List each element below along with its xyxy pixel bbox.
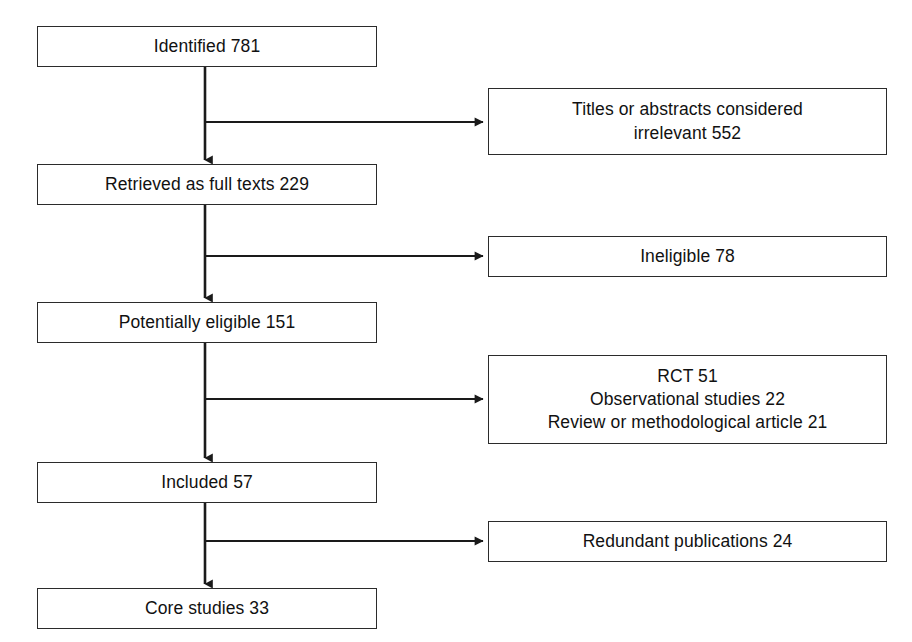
node-potentially-eligible: Potentially eligible 151 [37,302,377,343]
flowchart-canvas: Identified 781 Retrieved as full texts 2… [0,0,912,642]
node-excluded-study-types: RCT 51 Observational studies 22 Review o… [488,355,887,444]
node-potentially-eligible-label: Potentially eligible 151 [113,311,302,334]
node-ineligible-label: Ineligible 78 [634,245,741,268]
node-identified-label: Identified 781 [148,35,267,58]
node-retrieved-full-texts: Retrieved as full texts 229 [37,164,377,205]
node-included: Included 57 [37,462,377,503]
node-retrieved-full-texts-label: Retrieved as full texts 229 [99,173,315,196]
node-titles-abstracts-irrelevant-label: Titles or abstracts considered irrelevan… [566,98,809,144]
node-ineligible: Ineligible 78 [488,236,887,277]
node-core-studies-label: Core studies 33 [139,597,275,620]
node-titles-abstracts-irrelevant: Titles or abstracts considered irrelevan… [488,88,887,155]
node-identified: Identified 781 [37,26,377,67]
node-redundant-publications: Redundant publications 24 [488,521,887,562]
node-core-studies: Core studies 33 [37,588,377,629]
node-excluded-study-types-label: RCT 51 Observational studies 22 Review o… [542,365,834,434]
node-included-label: Included 57 [155,471,259,494]
node-redundant-publications-label: Redundant publications 24 [577,530,799,553]
